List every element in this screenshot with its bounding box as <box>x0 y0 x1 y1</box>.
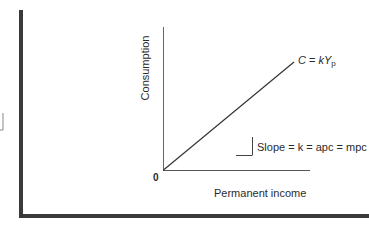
curve-label-lhs: C <box>298 54 306 66</box>
origin-label: 0 <box>153 172 159 183</box>
slope-triangle <box>236 137 253 156</box>
curve-label-subscript: p <box>331 59 335 68</box>
x-axis-label: Permanent income <box>214 187 306 199</box>
diagram-canvas <box>0 0 369 225</box>
left-bracket-mark <box>0 113 3 130</box>
slope-annotation: Slope = k = apc = mpc <box>257 141 367 153</box>
curve-label-equals: = <box>306 54 319 66</box>
curve-label: C = kYp <box>298 54 336 68</box>
y-axis-label: Consumption <box>139 28 151 108</box>
consumption-function-line <box>164 62 295 170</box>
